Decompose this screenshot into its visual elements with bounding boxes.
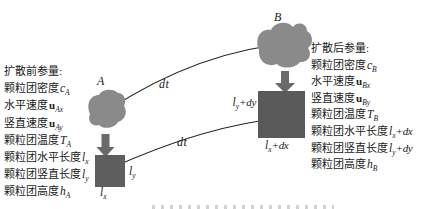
pre-dispersion-params: 扩散前参量: 颗粒团密度cA 水平速度uAx 竖直速度uAy 颗粒团温度TA 颗… [4,63,89,201]
post-dispersion-params: 扩散后参量: 颗粒团密度cB 水平速度uBx 竖直速度uBy 颗粒团温度TB 颗… [311,40,412,173]
footprint-square-small [95,155,125,187]
param-subscript: x [85,157,88,166]
post-params-title: 扩散后参量: [311,40,412,57]
param-label: 颗粒团高度 [311,158,366,170]
param-label: 颗粒团温度 [311,108,366,120]
footprint-square-large [258,91,305,138]
param-symbol: h [366,158,373,170]
param-vertical-length-a: 颗粒团竖直长度ly [4,166,89,183]
param-label: 颗粒团密度 [311,59,366,71]
param-label: 水平速度 [4,99,48,111]
param-vertical-velocity-a: 竖直速度uAy [4,115,89,132]
param-subscript: Ay [55,123,63,132]
param-label: 竖直速度 [311,92,355,104]
param-height-a: 颗粒团高度hA [4,183,89,200]
dim-suffix: +dy [239,96,256,108]
param-subscript: B [373,164,378,173]
param-horizontal-velocity-a: 水平速度uAx [4,97,89,114]
param-vertical-length-b: 颗粒团竖直长度ly+dy [311,140,412,157]
dim-subscript: y [132,171,135,180]
cloud-a-label: A [97,74,104,89]
dt-label-lower: dt [177,135,187,150]
particle-cloud-a [88,90,125,128]
param-symbol: h [59,185,66,197]
param-label: 颗粒团密度 [4,82,59,94]
dim-subscript: x [103,192,106,201]
param-label: 颗粒团温度 [4,134,59,146]
param-label: 颗粒团水平长度 [311,125,388,137]
param-suffix: +dy [396,142,413,154]
param-label: 水平速度 [311,75,355,87]
dispersion-diagram: 扩散前参量: 颗粒团密度cA 水平速度uAx 竖直速度uAy 颗粒团温度TA 颗… [0,0,427,209]
large-square-ly-dy-label: ly+dy [214,96,256,108]
param-vertical-velocity-b: 竖直速度uBy [311,90,412,107]
large-square-lx-dx-label: lx+dx [264,139,288,151]
param-horizontal-length-b: 颗粒团水平长度lx+dx [311,123,412,140]
small-square-lx-label: lx [99,186,107,198]
trajectory-curve-squares [107,118,284,170]
param-density-a: 颗粒团密度cA [4,80,89,97]
param-subscript: A [65,88,70,97]
param-temperature-a: 颗粒团温度TA [4,132,89,149]
down-arrow-icon-right [275,71,295,93]
param-height-b: 颗粒团高度hB [311,156,412,173]
particle-cloud-b [257,23,312,68]
param-horizontal-velocity-b: 水平速度uBx [311,73,412,90]
param-label: 颗粒团高度 [4,185,59,197]
cloud-b-label: B [274,10,281,25]
pre-params-title: 扩散前参量: [4,63,89,80]
down-arrow-icon-left [97,134,115,157]
param-temperature-b: 颗粒团温度TB [311,106,412,123]
clipped-caption-remnant [152,205,334,209]
dim-suffix: +dx [272,139,289,151]
param-label: 竖直速度 [4,117,48,129]
param-subscript: A [66,140,71,149]
small-square-ly-label: ly [128,165,136,177]
param-subscript: A [66,192,71,201]
param-horizontal-length-a: 颗粒团水平长度lx [4,149,89,166]
param-label: 颗粒团竖直长度 [311,142,388,154]
param-label: 颗粒团水平长度 [4,151,81,163]
param-label: 颗粒团竖直长度 [4,168,81,180]
param-subscript: y [85,174,88,183]
dt-label-upper: dt [159,77,169,92]
param-suffix: +dx [396,125,413,137]
param-density-b: 颗粒团密度cB [311,57,412,74]
param-subscript: Ax [55,106,63,115]
param-subscript: B [372,65,377,74]
